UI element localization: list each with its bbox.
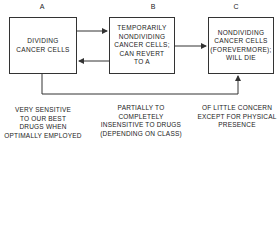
caption-c: OF LITTLE CONCERN EXCEPT FOR PHYSICAL PR… bbox=[196, 104, 278, 130]
caption-b: PARTIALLY TO COMPLETELY INSENSITIVE TO D… bbox=[98, 104, 184, 138]
caption-a: VERY SENSITIVE TO OUR BEST DRUGS WHEN OP… bbox=[2, 106, 84, 140]
